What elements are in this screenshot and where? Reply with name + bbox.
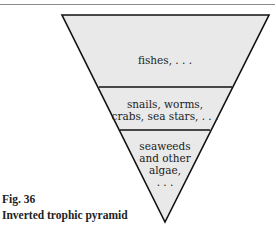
figure-title: Inverted trophic pyramid bbox=[2, 209, 128, 221]
level-bottom-label: seaweeds and other algae, . . . bbox=[125, 140, 205, 188]
level-bottom-line3: algae, bbox=[125, 164, 205, 176]
figure-number: Fig. 36 bbox=[2, 193, 35, 205]
level-top-label: fishes, . . . bbox=[115, 54, 215, 66]
level-middle-line2: crabs, sea stars, . . . bbox=[100, 110, 230, 122]
level-bottom-line1: seaweeds bbox=[125, 140, 205, 152]
level-middle-label: snails, worms, crabs, sea stars, . . . bbox=[100, 98, 230, 122]
level-bottom-line2: and other bbox=[125, 152, 205, 164]
level-bottom-line4: . . . bbox=[125, 176, 205, 188]
level-top-text: fishes, . . . bbox=[138, 54, 192, 66]
level-middle-line1: snails, worms, bbox=[100, 98, 230, 110]
